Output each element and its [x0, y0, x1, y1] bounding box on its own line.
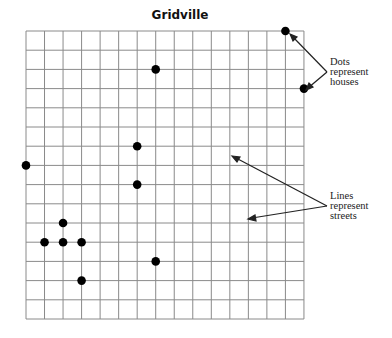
house-dot	[281, 27, 290, 36]
house-dot	[133, 142, 142, 151]
lines-legend: Lines represent streets	[330, 191, 368, 221]
dots-legend: Dots represent houses	[330, 57, 368, 87]
house-dot	[59, 238, 68, 247]
house-dot	[22, 161, 31, 170]
gridville-map	[0, 0, 392, 338]
house-dot	[133, 180, 142, 189]
house-dots	[22, 27, 309, 285]
house-dot	[77, 276, 86, 285]
street-grid	[26, 31, 304, 319]
house-dot	[59, 219, 68, 228]
house-dot	[151, 257, 160, 266]
house-dot	[40, 238, 49, 247]
house-dot	[77, 238, 86, 247]
house-dot	[151, 65, 160, 74]
